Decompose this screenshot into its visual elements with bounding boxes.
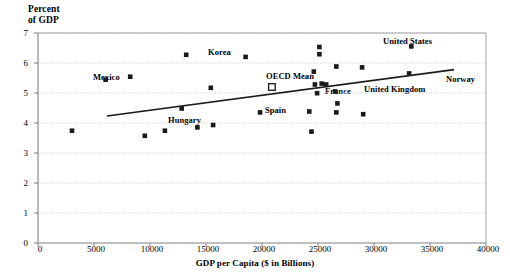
data-point xyxy=(315,91,320,96)
data-point xyxy=(103,77,108,82)
data-point xyxy=(312,69,317,74)
data-point xyxy=(334,64,339,69)
data-point xyxy=(313,82,318,87)
data-point xyxy=(317,45,322,50)
data-point xyxy=(70,128,75,133)
data-point xyxy=(163,128,168,133)
data-point xyxy=(309,129,314,134)
data-point xyxy=(179,106,184,111)
data-point xyxy=(143,134,148,139)
data-point xyxy=(324,82,329,87)
data-points xyxy=(70,44,414,138)
oecd-mean-point xyxy=(269,84,276,91)
plot-frame xyxy=(38,33,486,243)
x-axis-ticks xyxy=(38,243,486,247)
data-point xyxy=(184,53,189,58)
data-point xyxy=(128,74,133,79)
data-point xyxy=(319,81,324,86)
data-point xyxy=(334,110,339,115)
data-point xyxy=(360,65,365,70)
grid-lines xyxy=(38,33,486,213)
data-point xyxy=(409,44,414,49)
scatter-chart: Percentof GDP GDP per Capita ($ in Billi… xyxy=(0,0,510,278)
data-point xyxy=(317,52,322,57)
plot-canvas xyxy=(0,0,510,278)
data-point xyxy=(209,86,214,91)
data-point xyxy=(211,123,216,128)
data-point xyxy=(361,112,366,117)
data-point xyxy=(335,101,340,106)
data-point xyxy=(243,55,248,60)
y-axis-ticks xyxy=(34,33,38,243)
data-point xyxy=(407,71,412,76)
data-point xyxy=(195,125,200,130)
axes xyxy=(38,33,486,243)
data-point xyxy=(258,110,263,115)
data-point xyxy=(333,89,338,94)
data-point xyxy=(307,109,312,114)
